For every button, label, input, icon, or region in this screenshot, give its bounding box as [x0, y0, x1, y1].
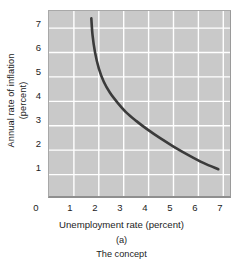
x-tick-label-4: 4: [138, 203, 152, 213]
y-tick-label-5: 5: [27, 67, 41, 77]
x-tick-label-5: 5: [163, 203, 177, 213]
panel-label: (a): [0, 235, 243, 245]
y-axis-title-line1: Annual rate of inflation: [7, 53, 17, 147]
horizontal-gridlines: [49, 28, 231, 174]
x-tick-label-3: 3: [113, 203, 127, 213]
chart-canvas: [49, 11, 231, 198]
y-tick-label-2: 2: [27, 139, 41, 149]
phillips-curve-line: [91, 18, 218, 169]
y-tick-label-4: 4: [27, 91, 41, 101]
x-tick-label-6: 6: [188, 203, 202, 213]
x-tick-label-1: 1: [63, 203, 77, 213]
origin-tick-label-0: 0: [29, 203, 43, 213]
x-tick-label-2: 2: [88, 203, 102, 213]
y-tick-label-3: 3: [27, 115, 41, 125]
y-tick-label-7: 7: [27, 19, 41, 29]
plot-area: [48, 10, 231, 198]
vertical-gridlines: [74, 11, 223, 198]
x-axis-title: Unemployment rate (percent): [0, 219, 243, 230]
panel-caption: The concept: [0, 249, 243, 259]
y-tick-label-6: 6: [27, 43, 41, 53]
phillips-curve-figure: Annual rate of inflation (percent) 7 6 5…: [0, 0, 243, 264]
x-tick-label-7: 7: [213, 203, 227, 213]
y-tick-label-1: 1: [27, 163, 41, 173]
